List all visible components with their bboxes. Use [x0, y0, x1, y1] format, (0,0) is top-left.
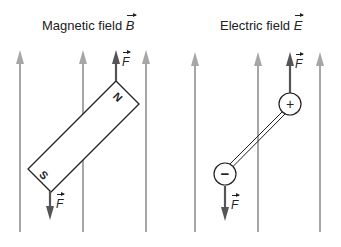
force-symbol: F	[295, 57, 302, 71]
magnet-force-down-arrow	[46, 191, 54, 220]
field-line-arrow	[316, 52, 324, 232]
dipole-force-up-arrow	[286, 52, 294, 93]
plus-sign: +	[286, 96, 294, 112]
minus-sign: −	[221, 165, 230, 182]
magnet-force-down-label: F	[56, 197, 63, 211]
magnet-force-up-arrow	[112, 50, 120, 81]
negative-charge: −	[214, 163, 236, 185]
dipole-force-down-label: F	[231, 198, 238, 212]
dipole-force-up-label: F	[295, 57, 302, 71]
force-symbol: F	[231, 198, 238, 212]
field-line-arrow	[16, 50, 24, 232]
positive-charge: +	[279, 93, 301, 115]
field-line-arrow	[142, 50, 150, 232]
field-line-arrow	[254, 52, 262, 232]
force-symbol: F	[122, 55, 129, 69]
field-line-arrow	[191, 52, 199, 232]
diagram-canvas: N S	[0, 0, 341, 247]
dipole-force-down-arrow	[221, 186, 229, 221]
force-symbol: F	[56, 197, 63, 211]
magnet-force-up-label: F	[122, 55, 129, 69]
